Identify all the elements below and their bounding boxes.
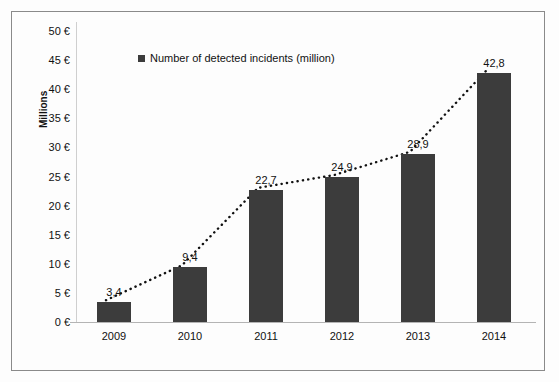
y-axis-tick-label: 20 € <box>26 200 70 212</box>
x-axis-tick-label: 2012 <box>307 330 377 342</box>
y-axis-tick-label: 0 € <box>26 316 70 328</box>
y-axis-tick-labels: 0 €5 €10 €15 €20 €25 €30 €35 €40 €45 €50… <box>26 0 70 382</box>
y-axis-tick-label: 10 € <box>26 258 70 270</box>
y-axis-tick-label: 30 € <box>26 141 70 153</box>
legend-label: Number of detected incidents (million) <box>150 52 335 64</box>
bar-value-label: 22,7 <box>236 174 296 186</box>
bar-value-label: 24,9 <box>312 161 372 173</box>
y-axis-tick-label: 40 € <box>26 83 70 95</box>
y-axis-tick-label: 45 € <box>26 54 70 66</box>
y-axis-tick-label: 25 € <box>26 171 70 183</box>
bar[interactable] <box>173 267 207 322</box>
y-axis-tick-label: 35 € <box>26 112 70 124</box>
x-axis-tick-label: 2010 <box>155 330 225 342</box>
bar[interactable] <box>97 302 131 322</box>
bar[interactable] <box>477 73 511 322</box>
bar-value-label: 28,9 <box>388 138 448 150</box>
y-axis-tick-label: 15 € <box>26 229 70 241</box>
x-axis-tick-label: 2009 <box>79 330 149 342</box>
x-axis-tick-label: 2011 <box>231 330 301 342</box>
bar-value-label: 9,4 <box>160 251 220 263</box>
bar-value-label: 3,4 <box>84 286 144 298</box>
bar[interactable] <box>325 177 359 322</box>
y-axis-tick-label: 50 € <box>26 25 70 37</box>
legend-swatch-icon <box>138 55 145 62</box>
chart-canvas: Millions 0 €5 €10 €15 €20 €25 €30 €35 €4… <box>0 0 559 382</box>
bar-value-label: 42,8 <box>464 57 524 69</box>
bar[interactable] <box>401 154 435 322</box>
y-axis-tick-label: 5 € <box>26 287 70 299</box>
x-axis-tick-label: 2013 <box>383 330 453 342</box>
bar[interactable] <box>249 190 283 322</box>
chart-legend: Number of detected incidents (million) <box>138 52 335 64</box>
x-axis-tick-label: 2014 <box>459 330 529 342</box>
x-axis-line <box>70 322 536 323</box>
